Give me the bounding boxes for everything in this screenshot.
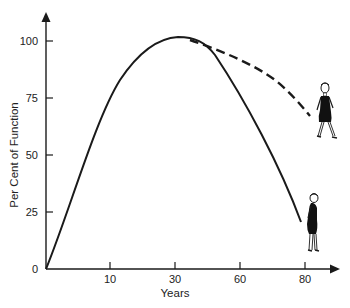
- x-ticks: 10 30 60 80: [104, 262, 311, 285]
- function-vs-age-chart: 0 25 50 75 100 10 30 60 80 Years Per Cen…: [0, 0, 350, 308]
- y-tick-label-50: 50: [26, 149, 38, 161]
- y-tick-label-25: 25: [26, 206, 38, 218]
- upright-woman-illustration-icon: [317, 83, 337, 138]
- x-tick-label-30: 30: [169, 273, 181, 285]
- x-tick-label-80: 80: [299, 273, 311, 285]
- stooped-woman-illustration-icon: [307, 194, 319, 252]
- x-axis-title: Years: [161, 287, 190, 299]
- y-axis: [42, 12, 51, 269]
- solid-decline-curve: [46, 37, 301, 269]
- x-axis: [46, 265, 340, 274]
- x-tick-label-10: 10: [104, 273, 116, 285]
- dashed-maintained-curve: [190, 40, 310, 116]
- y-tick-label-75: 75: [26, 92, 38, 104]
- y-axis-title: Per Cent of Function: [8, 102, 20, 207]
- x-tick-label-60: 60: [234, 273, 246, 285]
- x-axis-arrow-icon: [330, 265, 340, 274]
- y-axis-arrow-icon: [42, 12, 51, 22]
- y-tick-label-0: 0: [32, 263, 38, 275]
- y-tick-label-100: 100: [20, 35, 38, 47]
- y-ticks: 0 25 50 75 100: [20, 35, 53, 275]
